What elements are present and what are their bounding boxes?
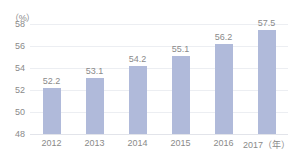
bar[interactable] [258,30,276,135]
x-axis-tick-label: 2017（年） [232,138,297,151]
bar-group: 56.2 [204,24,244,134]
plot-area: 485052545658 52.253.154.255.156.257.5 [30,24,288,134]
bar-value-label: 53.1 [75,66,115,76]
bar[interactable] [172,56,190,134]
bar-value-label: 56.2 [204,32,244,42]
bar-group: 52.2 [32,24,72,134]
bar-value-label: 57.5 [247,18,287,28]
y-axis-tick-label: 52 [15,85,25,95]
bar-group: 55.1 [161,24,201,134]
x-axis-tick-labels: 201220132014201520162017（年） [30,138,288,158]
bars-layer: 52.253.154.255.156.257.5 [30,24,288,134]
bar-group: 57.5 [247,24,287,134]
bar[interactable] [129,66,147,134]
bar-value-label: 54.2 [118,54,158,64]
bar[interactable] [43,88,61,134]
bar[interactable] [86,78,104,134]
bar-value-label: 52.2 [32,76,72,86]
y-axis-tick-label: 50 [15,107,25,117]
bar-group: 54.2 [118,24,158,134]
y-axis-tick-label: 54 [15,63,25,73]
gridline [30,134,288,135]
y-axis-tick-label: 58 [15,19,25,29]
y-axis-tick-label: 56 [15,41,25,51]
bar[interactable] [215,44,233,134]
bar-chart: （%） 485052545658 52.253.154.255.156.257.… [0,0,296,162]
bar-group: 53.1 [75,24,115,134]
bar-value-label: 55.1 [161,44,201,54]
